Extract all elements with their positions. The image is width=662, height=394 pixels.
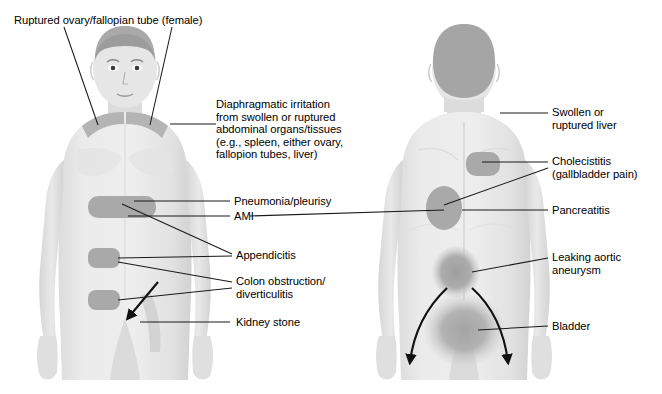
label-ami: AMI — [234, 210, 254, 223]
label-appendicitis: Appendicitis — [236, 249, 296, 262]
label-ruptured-ovary: Ruptured ovary/fallopian tube (female) — [14, 14, 202, 27]
label-pancreatitis: Pancreatitis — [552, 204, 610, 217]
label-colon-obstruction: Colon obstruction/ diverticulitis — [236, 275, 325, 300]
leader-ruptured-ovary-left — [64, 27, 98, 125]
label-cholecistitis: Cholecistitis (gallbladder pain) — [552, 155, 638, 180]
label-kidney-stone: Kidney stone — [236, 316, 300, 329]
label-diaphragmatic-irritation: Diaphragmatic irritation from swollen or… — [216, 98, 343, 161]
mid-back-pain-oval — [426, 186, 462, 230]
label-leaking-aortic-aneurysm: Leaking aortic aneurysm — [552, 251, 621, 276]
posterior-figure — [376, 24, 552, 380]
referred-pain-diagram: Ruptured ovary/fallopian tube (female) D… — [0, 0, 662, 394]
periumbilical-pain-patch — [88, 248, 120, 268]
lower-quadrant-pain-patch — [88, 290, 120, 310]
sacral-bladder-pain-oval — [424, 294, 504, 366]
upper-back-pain-patch — [466, 152, 500, 176]
label-pneumonia-pleurisy: Pneumonia/pleurisy — [234, 195, 331, 208]
label-bladder: Bladder — [552, 320, 590, 333]
anterior-figure — [37, 26, 213, 380]
label-swollen-liver: Swollen or ruptured liver — [552, 106, 617, 131]
